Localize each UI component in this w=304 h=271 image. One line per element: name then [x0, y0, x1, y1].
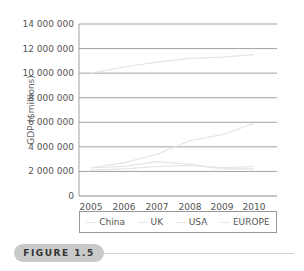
figure-rule: [104, 253, 294, 254]
legend-item-europe: EUROPE: [220, 217, 270, 227]
legend-line-icon: [176, 222, 186, 223]
legend-item-usa: USA: [176, 217, 208, 227]
series-line-usa: [91, 55, 254, 73]
legend-line-icon: [220, 222, 230, 223]
legend-item-uk: UK: [138, 217, 164, 227]
y-tick-label: 2 000 000: [28, 166, 74, 176]
legend-line-icon: [138, 222, 148, 223]
y-tick-label: 14 000 000: [22, 19, 74, 29]
series-line-china: [91, 124, 254, 168]
data-series: [91, 55, 254, 170]
figure-label: FIGURE 1.5: [14, 244, 104, 262]
chart-legend: China UK USA EUROPE: [79, 211, 277, 233]
y-tick-label: 12 000 000: [22, 44, 74, 54]
legend-item-china: China: [86, 217, 125, 227]
y-axis-label: GDP ($millions): [26, 75, 36, 145]
gridlines: [79, 24, 277, 196]
y-tick-label: 0: [68, 191, 74, 201]
legend-line-icon: [86, 222, 96, 223]
